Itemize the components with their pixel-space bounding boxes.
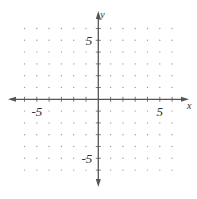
grid-dot: [122, 40, 123, 41]
grid-dot: [48, 122, 49, 123]
grid-dot: [147, 28, 148, 29]
grid-dot: [48, 51, 49, 52]
y-tick-label: 5: [86, 33, 93, 48]
grid-dot: [171, 146, 172, 147]
grid-dot: [110, 169, 111, 170]
grid-dot: [135, 146, 136, 147]
grid-dot: [110, 158, 111, 159]
grid-dot: [110, 87, 111, 88]
grid-dot: [122, 134, 123, 135]
grid-dot: [122, 63, 123, 64]
grid-dot: [24, 51, 25, 52]
grid-dot: [61, 51, 62, 52]
grid-dot: [73, 40, 74, 41]
grid-dot: [61, 63, 62, 64]
grid-dot: [147, 146, 148, 147]
grid-dot: [36, 51, 37, 52]
grid-dot: [122, 122, 123, 123]
grid-dot: [61, 28, 62, 29]
grid-dot: [36, 158, 37, 159]
grid-dot: [48, 28, 49, 29]
grid-dot: [48, 40, 49, 41]
grid-dot: [61, 87, 62, 88]
grid-dot: [159, 134, 160, 135]
y-tick-label: -5: [81, 151, 92, 166]
grid-dot: [61, 134, 62, 135]
grid-dot: [159, 158, 160, 159]
grid-dot: [24, 158, 25, 159]
grid-dot: [48, 63, 49, 64]
grid-dot: [147, 134, 148, 135]
grid-dot: [61, 158, 62, 159]
grid-dot: [36, 28, 37, 29]
grid-dot: [110, 75, 111, 76]
grid-dot: [24, 134, 25, 135]
grid-dot: [159, 51, 160, 52]
grid-dot: [85, 63, 86, 64]
coordinate-plane: xy-555-5: [0, 0, 197, 199]
axes: [8, 11, 189, 187]
grid-dot: [159, 75, 160, 76]
grid-dot: [135, 110, 136, 111]
grid-dot: [171, 75, 172, 76]
grid-dot: [36, 134, 37, 135]
axis-labels: xy-555-5: [31, 9, 192, 166]
grid-dot: [85, 75, 86, 76]
grid-dot: [171, 169, 172, 170]
y-axis-label: y: [99, 9, 105, 20]
grid-dot: [36, 87, 37, 88]
grid-dot: [85, 51, 86, 52]
grid-dot: [24, 63, 25, 64]
grid-dot: [24, 146, 25, 147]
grid-dot: [73, 75, 74, 76]
grid-dot: [36, 63, 37, 64]
grid-dot: [122, 146, 123, 147]
grid-dot: [171, 122, 172, 123]
x-axis-left-arrow-icon: [8, 97, 16, 102]
grid-dot: [85, 87, 86, 88]
grid-dot: [147, 63, 148, 64]
grid-dot: [159, 28, 160, 29]
grid-dot: [36, 75, 37, 76]
grid-dot: [48, 75, 49, 76]
grid-dot: [48, 146, 49, 147]
grid-dot: [24, 75, 25, 76]
x-tick-label: -5: [31, 104, 42, 119]
grid-dot: [110, 63, 111, 64]
grid-dot: [147, 158, 148, 159]
grid-dot: [73, 169, 74, 170]
grid-dot: [159, 169, 160, 170]
x-axis-label: x: [186, 100, 192, 111]
grid-dot: [48, 134, 49, 135]
grid-dot: [48, 169, 49, 170]
grid-dot: [159, 122, 160, 123]
grid-dot: [48, 110, 49, 111]
grid-dot: [110, 51, 111, 52]
grid-dot: [135, 169, 136, 170]
grid-dot: [147, 75, 148, 76]
grid-dot: [85, 122, 86, 123]
grid-dot: [36, 122, 37, 123]
y-axis-down-arrow-icon: [96, 179, 101, 187]
grid-dot: [110, 40, 111, 41]
grid-dot: [171, 87, 172, 88]
grid-dot: [36, 146, 37, 147]
grid-dot: [36, 169, 37, 170]
grid-dot: [135, 75, 136, 76]
grid-dot: [122, 75, 123, 76]
grid-dot: [171, 134, 172, 135]
grid-dot: [110, 110, 111, 111]
grid-dot: [147, 122, 148, 123]
grid-dot: [122, 169, 123, 170]
grid-dot: [135, 51, 136, 52]
grid-dot: [85, 169, 86, 170]
grid-dot: [147, 40, 148, 41]
grid-dot: [147, 51, 148, 52]
grid-dot: [73, 110, 74, 111]
grid-dot: [122, 28, 123, 29]
grid-dot: [85, 134, 86, 135]
grid-dot: [122, 110, 123, 111]
grid-dot: [147, 87, 148, 88]
grid-dot: [110, 28, 111, 29]
grid-dot: [24, 87, 25, 88]
